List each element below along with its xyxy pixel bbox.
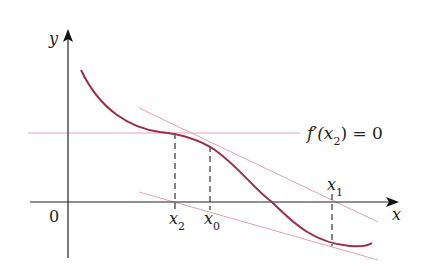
origin-label: 0 <box>49 207 59 226</box>
x0-label: x0 <box>204 209 220 233</box>
x-axis-label: x <box>392 205 401 224</box>
function-curve <box>81 70 372 246</box>
x2-label: x2 <box>169 209 185 233</box>
newton-method-diagram: y x 0 x2 x0 x1 f′(x2) = 0 <box>0 0 432 278</box>
derivative-zero-annotation: f′(x2) = 0 <box>305 123 383 148</box>
diagram-canvas: y x 0 x2 x0 x1 f′(x2) = 0 <box>0 0 432 278</box>
x1-label: x1 <box>327 175 343 199</box>
y-axis-label: y <box>48 29 59 48</box>
